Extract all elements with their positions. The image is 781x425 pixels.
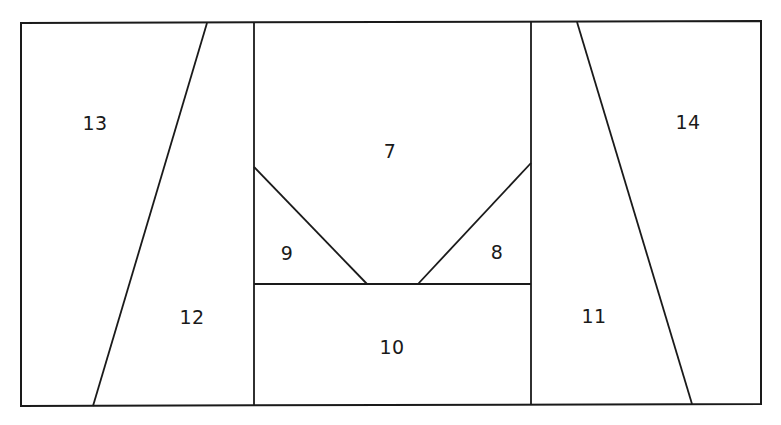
region-label-12: 12 xyxy=(180,306,205,328)
region-label-13: 13 xyxy=(83,112,108,134)
region-label-7: 7 xyxy=(384,140,397,162)
diagram-canvas: 13 14 7 9 8 12 10 11 xyxy=(0,0,781,425)
region-label-9: 9 xyxy=(281,242,294,264)
region-label-8: 8 xyxy=(491,241,504,263)
partitioned-rectangle-figure: 13 14 7 9 8 12 10 11 xyxy=(0,0,781,425)
region-label-11: 11 xyxy=(582,305,607,327)
region-label-10: 10 xyxy=(380,336,405,358)
region-label-14: 14 xyxy=(676,111,701,133)
